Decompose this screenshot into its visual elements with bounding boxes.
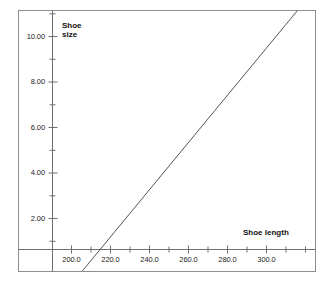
chart-container: Shoesize Shoe length 10.00 8.00 6.00 4.0… — [0, 0, 333, 284]
x-tick-label-300: 300.0 — [249, 255, 284, 264]
chart-canvas — [0, 0, 333, 284]
x-axis-title: Shoe length — [243, 228, 289, 237]
x-tick-label-200: 200.0 — [54, 255, 89, 264]
y-tick-label-2: 2.00 — [20, 214, 45, 223]
y-tick-label-8: 8.00 — [20, 77, 45, 86]
x-tick-label-240: 240.0 — [132, 255, 167, 264]
y-tick-label-6: 6.00 — [20, 123, 45, 132]
y-axis-title-line2: size — [62, 30, 77, 39]
x-tick-label-220: 220.0 — [93, 255, 128, 264]
y-tick-label-10: 10.00 — [20, 32, 45, 41]
y-axis-title: Shoesize — [62, 21, 82, 39]
x-tick-label-280: 280.0 — [210, 255, 245, 264]
y-axis-title-line1: Shoe — [62, 21, 82, 30]
y-tick-label-4: 4.00 — [20, 168, 45, 177]
x-tick-label-260: 260.0 — [171, 255, 206, 264]
